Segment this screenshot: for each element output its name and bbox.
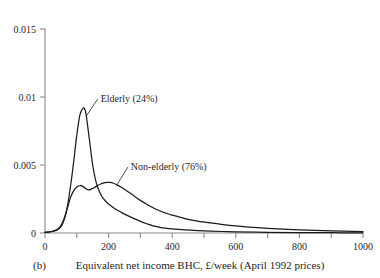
annotation-leader-line	[86, 99, 97, 116]
panel-label: (b)	[33, 259, 46, 272]
x-tick-label: 0	[43, 241, 48, 252]
y-tick-label: 0.015	[14, 24, 37, 35]
x-tick-label: 200	[101, 241, 116, 252]
x-tick-label: 800	[292, 241, 307, 252]
y-tick-label: 0.01	[19, 92, 37, 103]
curve-annotations: Elderly (24%)Non-elderly (76%)	[86, 93, 206, 185]
annotation-leader-line	[117, 167, 128, 185]
density-chart: 00.0050.010.01502004006008001000 Elderly…	[0, 0, 380, 278]
series-label-elderly: Elderly (24%)	[101, 93, 158, 105]
density-curve-non-elderly	[45, 182, 363, 232]
figure-panel-b: 00.0050.010.01502004006008001000 Elderly…	[0, 0, 380, 278]
series-label-non-elderly: Non-elderly (76%)	[131, 161, 207, 173]
x-axis-title: Equivalent net income BHC, £/week (April…	[76, 259, 325, 272]
x-tick-label: 600	[228, 241, 243, 252]
x-tick-label: 400	[165, 241, 180, 252]
y-tick-label: 0.005	[14, 160, 37, 171]
y-tick-label: 0	[31, 228, 36, 239]
axes: 00.0050.010.01502004006008001000	[14, 24, 374, 253]
x-tick-label: 1000	[353, 241, 373, 252]
